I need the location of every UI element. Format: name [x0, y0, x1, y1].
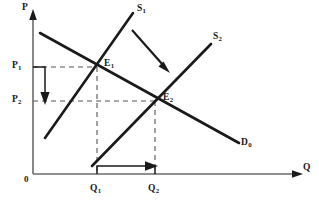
price-label-text: P: [12, 60, 18, 70]
curve-label-text: S: [137, 3, 142, 13]
quantity-axis: [33, 170, 303, 178]
curve-label-sub: 0: [248, 141, 251, 148]
curve-label-text: D: [241, 137, 248, 147]
quantity-axis-label: Q: [303, 163, 310, 173]
quantity-label-sub: 2: [156, 187, 159, 194]
price-label-p2: P2: [12, 95, 21, 105]
price-axis-label: P: [22, 3, 28, 13]
equilibrium-point-e1-label: E1: [104, 59, 114, 69]
price-label-p1: P1: [12, 61, 21, 71]
supply-curve-s1-label: S1: [137, 4, 146, 14]
supply-demand-diagram: P Q 0 S1 S2 D0 E1 E2 P1 P2 Q1 Q2: [0, 0, 319, 206]
price-label-text: P: [12, 94, 18, 104]
curve-label-sub: 1: [143, 7, 146, 14]
quantity-label-text: Q: [90, 183, 97, 193]
quantity-label-text: Q: [148, 183, 155, 193]
origin-label: 0: [24, 175, 29, 184]
supply-shift-arrow: [132, 30, 170, 73]
price-decrease-arrow: [33, 67, 50, 105]
equilibrium-point-e2-label: E2: [163, 93, 173, 103]
curve-label-text: S: [213, 31, 218, 41]
price-label-sub: 2: [18, 98, 21, 105]
quantity-label-sub: 1: [98, 187, 101, 194]
point-label-text: E: [163, 92, 169, 102]
price-label-sub: 1: [18, 64, 21, 71]
supply-curve-s1: [45, 13, 133, 138]
quantity-label-q2: Q2: [148, 184, 159, 194]
curve-label-sub: 2: [219, 35, 222, 42]
demand-curve-d0: [40, 33, 239, 143]
quantity-increase-arrow: [97, 161, 158, 174]
point-label-sub: 1: [111, 62, 114, 69]
diagram-canvas: [0, 0, 319, 206]
point-label-text: E: [104, 58, 110, 68]
quantity-label-q1: Q1: [90, 184, 101, 194]
demand-curve-d0-label: D0: [241, 138, 251, 148]
supply-curve-s2-label: S2: [213, 32, 222, 42]
point-label-sub: 2: [170, 96, 173, 103]
price-axis: [29, 9, 37, 174]
